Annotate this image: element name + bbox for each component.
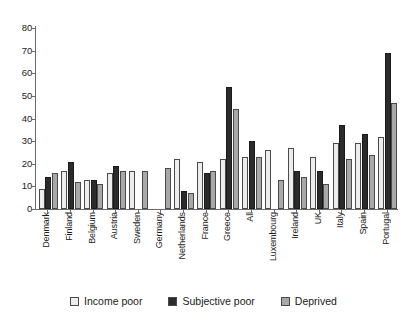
x-axis-tick-mark bbox=[47, 209, 48, 213]
y-axis-tick-mark bbox=[31, 209, 36, 210]
legend-swatch-icon bbox=[168, 297, 177, 306]
bar bbox=[301, 177, 307, 209]
bar bbox=[265, 150, 271, 209]
y-axis-tick-label: 30 bbox=[0, 136, 32, 146]
x-axis-tick-mark bbox=[387, 209, 388, 213]
bar bbox=[294, 171, 300, 209]
y-axis-tick-label: 0 bbox=[0, 204, 32, 214]
bar-group bbox=[355, 28, 374, 209]
bar-group bbox=[310, 28, 329, 209]
x-axis-tick-mark bbox=[138, 209, 139, 213]
bar bbox=[142, 171, 148, 209]
bar bbox=[91, 180, 97, 209]
bar bbox=[226, 87, 232, 209]
bar bbox=[339, 125, 345, 209]
bar bbox=[362, 134, 368, 209]
bar-group bbox=[84, 28, 103, 209]
bar bbox=[188, 193, 194, 209]
bar bbox=[220, 159, 226, 209]
bar bbox=[165, 168, 171, 209]
x-axis-category-label: All bbox=[246, 212, 255, 222]
x-axis-tick-mark bbox=[341, 209, 342, 213]
bar-group bbox=[242, 28, 261, 209]
x-axis-category-label: Greece bbox=[223, 212, 232, 241]
bar-group bbox=[39, 28, 58, 209]
y-axis-tick-label: 50 bbox=[0, 91, 32, 101]
x-axis-category-label: Portugal bbox=[382, 212, 391, 245]
x-axis-line bbox=[35, 209, 398, 210]
x-axis-tick-mark bbox=[70, 209, 71, 213]
bar bbox=[323, 184, 329, 209]
bar bbox=[310, 157, 316, 209]
bar bbox=[197, 162, 203, 210]
x-axis-category-label: France bbox=[201, 212, 210, 239]
bar bbox=[45, 177, 51, 209]
x-axis-category-label: Netherlands bbox=[178, 212, 187, 259]
bar-group bbox=[61, 28, 80, 209]
bar bbox=[113, 166, 119, 209]
x-axis-category-label: Denmark bbox=[42, 212, 51, 248]
x-axis-category-label: Austria bbox=[110, 212, 119, 239]
y-axis-tick-label: 40 bbox=[0, 114, 32, 124]
x-axis-category-label: Luxembourg bbox=[269, 212, 278, 261]
bar bbox=[233, 109, 239, 209]
legend-label: Income poor bbox=[84, 296, 142, 307]
x-axis-tick-mark bbox=[228, 209, 229, 213]
y-axis-tick-label: 20 bbox=[0, 159, 32, 169]
bar bbox=[84, 180, 90, 209]
bar bbox=[39, 189, 45, 209]
bar bbox=[278, 180, 284, 209]
bar bbox=[249, 141, 255, 209]
bar bbox=[346, 159, 352, 209]
x-axis-tick-mark bbox=[115, 209, 116, 213]
bar-group bbox=[265, 28, 284, 209]
y-axis-tick-label: 80 bbox=[0, 23, 32, 33]
chart-legend: Income poorSubjective poorDeprived bbox=[0, 296, 407, 307]
bar bbox=[181, 191, 187, 209]
x-axis-tick-mark bbox=[183, 209, 184, 213]
y-axis-tick-label: 10 bbox=[0, 181, 32, 191]
bar bbox=[120, 171, 126, 209]
bar-group bbox=[107, 28, 126, 209]
bar bbox=[385, 53, 391, 209]
bar bbox=[333, 143, 339, 209]
bar-group bbox=[378, 28, 397, 209]
bar bbox=[242, 157, 248, 209]
legend-item[interactable]: Subjective poor bbox=[168, 296, 254, 307]
x-axis-tick-mark bbox=[274, 209, 275, 213]
bar bbox=[75, 182, 81, 209]
bar bbox=[288, 148, 294, 209]
bar-group bbox=[288, 28, 307, 209]
legend-item[interactable]: Income poor bbox=[70, 296, 142, 307]
bar bbox=[97, 184, 103, 209]
bar bbox=[204, 173, 210, 209]
x-axis-category-label: Spain bbox=[359, 212, 368, 235]
x-axis-tick-mark bbox=[251, 209, 252, 213]
bar-group bbox=[174, 28, 193, 209]
x-axis-tick-mark bbox=[319, 209, 320, 213]
bar bbox=[317, 171, 323, 209]
bar bbox=[129, 171, 135, 209]
x-axis-category-label: Belgium bbox=[88, 212, 97, 244]
bar bbox=[68, 162, 74, 210]
x-axis-category-label: UK bbox=[314, 212, 323, 224]
y-axis-tick-labels: 01020304050607080 bbox=[0, 0, 36, 322]
x-axis-category-label: Sweden bbox=[133, 212, 142, 244]
legend-item[interactable]: Deprived bbox=[281, 296, 337, 307]
bar bbox=[378, 137, 384, 209]
x-axis-category-label: Italy bbox=[336, 212, 345, 228]
bar-group bbox=[129, 28, 148, 209]
bar bbox=[391, 103, 397, 209]
bar-chart: 01020304050607080 DenmarkFinlandBelgiumA… bbox=[0, 0, 407, 322]
legend-swatch-icon bbox=[70, 297, 79, 306]
bar-group bbox=[152, 28, 171, 209]
bar-group bbox=[333, 28, 352, 209]
x-axis-tick-mark bbox=[296, 209, 297, 213]
bar bbox=[107, 173, 113, 209]
bar bbox=[355, 143, 361, 209]
y-axis-tick-label: 60 bbox=[0, 68, 32, 78]
legend-label: Deprived bbox=[295, 296, 337, 307]
x-axis-category-labels: DenmarkFinlandBelgiumAustriaSwedenGerman… bbox=[36, 212, 398, 284]
bar bbox=[369, 155, 375, 209]
x-axis-tick-mark bbox=[206, 209, 207, 213]
